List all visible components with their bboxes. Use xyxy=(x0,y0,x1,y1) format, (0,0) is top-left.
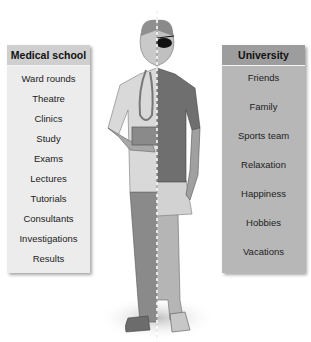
list-item: Exams xyxy=(7,149,90,169)
list-item: Investigations xyxy=(7,229,90,249)
list-item: Relaxation xyxy=(222,153,305,182)
list-item: Sports team xyxy=(222,124,305,153)
doctor-half xyxy=(108,20,158,332)
medical-school-list: Ward rounds Theatre Clinics Study Exams … xyxy=(7,66,90,273)
list-item: Vacations xyxy=(222,240,305,269)
list-item: Friends xyxy=(222,66,305,95)
list-item: Results xyxy=(7,249,90,269)
tablet-icon xyxy=(132,127,158,145)
list-item: Theatre xyxy=(7,89,90,109)
list-item: Family xyxy=(222,95,305,124)
medical-school-title: Medical school xyxy=(7,45,90,66)
university-title: University xyxy=(222,45,305,66)
shoe-icon xyxy=(125,316,150,332)
list-item: Consultants xyxy=(7,209,90,229)
list-item: Tutorials xyxy=(7,189,90,209)
list-item: Study xyxy=(7,129,90,149)
student-half xyxy=(156,20,200,332)
university-list: Friends Family Sports team Relaxation Ha… xyxy=(222,66,305,273)
eye-patch-icon xyxy=(156,38,172,48)
medical-school-panel: Medical school Ward rounds Theatre Clini… xyxy=(7,45,90,273)
list-item: Ward rounds xyxy=(7,69,90,89)
list-item: Happiness xyxy=(222,182,305,211)
list-item: Clinics xyxy=(7,109,90,129)
university-panel: University Friends Family Sports team Re… xyxy=(222,45,305,273)
list-item: Lectures xyxy=(7,169,90,189)
split-person-figure xyxy=(95,0,220,342)
list-item: Hobbies xyxy=(222,211,305,240)
